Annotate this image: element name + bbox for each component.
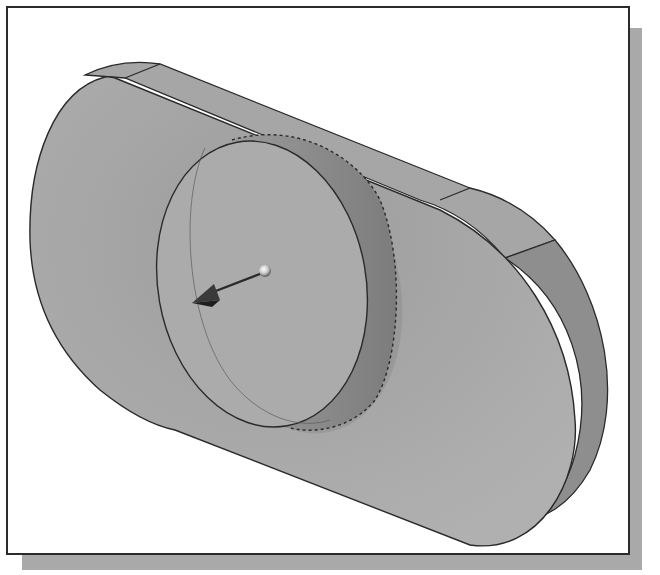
frame-shadow-bottom [22, 553, 642, 570]
part-model[interactable] [6, 6, 630, 555]
model-viewport[interactable]: 3D model viewport [6, 6, 630, 555]
frame-shadow-right [628, 28, 642, 570]
drag-handle-sphere[interactable] [259, 265, 271, 277]
